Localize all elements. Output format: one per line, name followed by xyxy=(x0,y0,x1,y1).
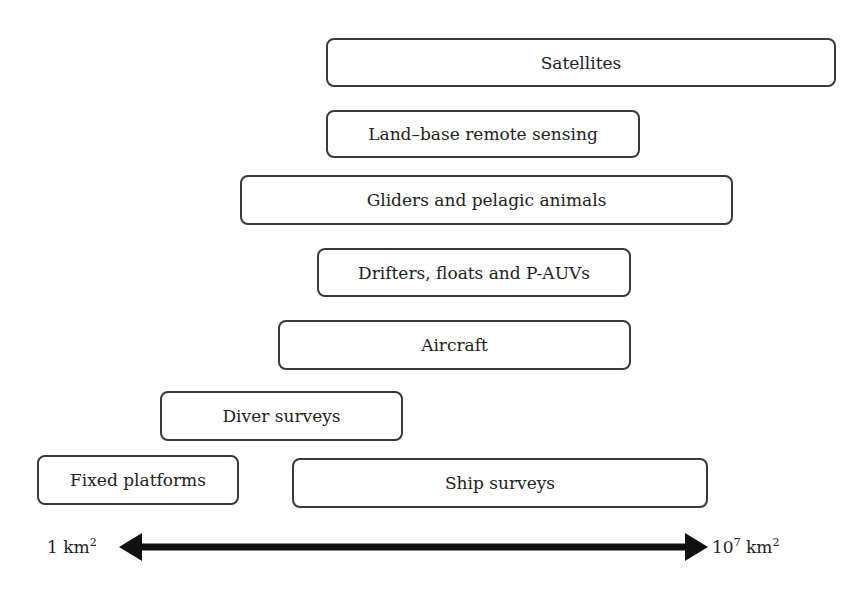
double-arrow-icon xyxy=(0,0,861,590)
axis-min-label: 1 km2 xyxy=(47,536,97,557)
axis-max-label: 107 km2 xyxy=(712,536,779,557)
